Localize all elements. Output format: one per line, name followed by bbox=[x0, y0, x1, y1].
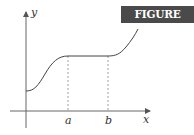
x-axis-label: x bbox=[143, 113, 150, 126]
marker-label-a: a bbox=[65, 114, 72, 127]
figure-badge: FIGURE 4.12 bbox=[121, 6, 194, 23]
function-curve bbox=[26, 29, 138, 91]
y-axis-label: y bbox=[30, 6, 38, 19]
marker-label-b: b bbox=[105, 114, 112, 127]
